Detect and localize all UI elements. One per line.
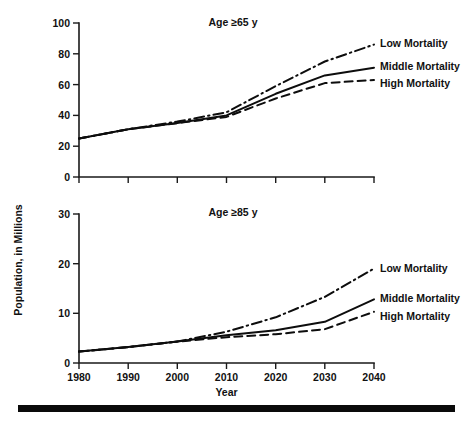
panel-65-y-ticklabels: 0 20 40 60 80 100 [52, 17, 70, 183]
panel-85-axes [79, 214, 374, 363]
panel-age-65: Age ≥65 y 0 20 40 60 80 100 [52, 16, 460, 183]
y-ticklabel-80: 80 [58, 48, 70, 60]
series-label-low-mortality-age-85: Low Mortality [380, 262, 448, 274]
x-ticklabel-2000: 2000 [166, 371, 190, 383]
series-label-middle-mortality-age-65: Middle Mortality [380, 60, 460, 72]
series-low-mortality-age-85 [79, 269, 374, 352]
panel-65-x-ticks [79, 177, 374, 183]
population-projection-chart: Population, in Millions Age ≥65 y 0 20 4… [0, 0, 468, 422]
panel-age-85: Age ≥85 y 0 10 20 30 [58, 206, 460, 398]
y-ticklabel-40: 40 [58, 109, 70, 121]
x-ticklabel-2040: 2040 [362, 371, 386, 383]
figure-container: Population, in Millions Age ≥65 y 0 20 4… [0, 0, 468, 422]
series-label-low-mortality-age-65: Low Mortality [380, 37, 448, 49]
series-low-mortality-age-65 [79, 45, 374, 139]
series-label-high-mortality-age-65: High Mortality [380, 77, 450, 89]
series-label-high-mortality-age-85: High Mortality [380, 310, 450, 322]
y-ticklabel-30-85: 30 [58, 208, 70, 220]
y-ticklabel-0-85: 0 [64, 357, 70, 369]
bottom-rule-bar [18, 405, 455, 412]
x-ticklabel-2020: 2020 [264, 371, 288, 383]
x-ticklabel-2030: 2030 [313, 371, 337, 383]
x-ticklabel-1990: 1990 [117, 371, 141, 383]
panel-85-y-ticks [73, 214, 79, 363]
series-high-mortality-age-65 [79, 80, 374, 139]
series-high-mortality-age-85 [79, 312, 374, 352]
x-ticklabel-2010: 2010 [215, 371, 239, 383]
y-ticklabel-0: 0 [64, 171, 70, 183]
y-ticklabel-20-85: 20 [58, 258, 70, 270]
y-ticklabel-10-85: 10 [58, 307, 70, 319]
y-ticklabel-100: 100 [52, 17, 70, 29]
panel-85-y-ticklabels: 0 10 20 30 [58, 208, 70, 369]
panel-65-axes [79, 23, 374, 177]
panel-85-x-ticks [79, 363, 374, 369]
y-ticklabel-60: 60 [58, 79, 70, 91]
panel-title-age-65: Age ≥65 y [209, 16, 258, 28]
x-axis-title: Year [215, 386, 237, 398]
x-ticklabel-1980: 1980 [67, 371, 91, 383]
panel-65-y-ticks [73, 23, 79, 177]
series-middle-mortality-age-65 [79, 68, 374, 139]
series-label-middle-mortality-age-85: Middle Mortality [380, 292, 460, 304]
panel-85-x-ticklabels: 1980 1990 2000 2010 2020 2030 2040 [67, 371, 386, 383]
y-axis-title: Population, in Millions [12, 204, 24, 316]
series-middle-mortality-age-85 [79, 299, 374, 351]
panel-title-age-85: Age ≥85 y [209, 206, 258, 218]
y-ticklabel-20: 20 [58, 140, 70, 152]
